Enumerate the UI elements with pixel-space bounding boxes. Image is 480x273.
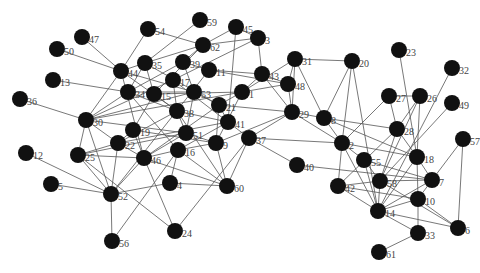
node-circle (289, 157, 305, 173)
node-circle (410, 225, 426, 241)
node-circle (49, 41, 65, 57)
node-26: 26 (412, 88, 437, 104)
node-label: 1 (249, 89, 254, 100)
node-circle (372, 173, 388, 189)
node-label: 46 (151, 155, 161, 166)
edge-57-6 (458, 139, 463, 228)
node-24: 24 (167, 223, 192, 239)
node-52: 52 (103, 186, 128, 202)
node-label: 19 (140, 127, 150, 138)
node-circle (162, 175, 178, 191)
node-label: 16 (185, 147, 195, 158)
node-circle (178, 125, 194, 141)
edge-49-58 (380, 103, 452, 181)
node-15: 15 (146, 86, 171, 102)
node-circle (175, 54, 191, 70)
node-label: 35 (152, 60, 162, 71)
node-label: 56 (119, 238, 129, 249)
node-57: 57 (455, 131, 480, 147)
node-circle (330, 178, 346, 194)
node-16: 16 (170, 142, 195, 158)
edge-20-2 (342, 61, 352, 143)
node-label: 33 (425, 230, 435, 241)
node-circle (370, 203, 386, 219)
node-40: 40 (289, 157, 314, 173)
node-circle (344, 53, 360, 69)
node-label: 23 (406, 47, 416, 58)
node-circle (195, 37, 211, 53)
node-circle (12, 91, 28, 107)
node-label: 24 (182, 228, 192, 239)
node-circle (371, 244, 387, 260)
node-23: 23 (391, 42, 416, 58)
node-label: 57 (470, 136, 480, 147)
node-12: 12 (18, 145, 43, 161)
node-label: 42 (345, 183, 355, 194)
node-61: 61 (371, 244, 396, 260)
node-label: 9 (223, 140, 228, 151)
node-circle (18, 145, 34, 161)
node-46: 46 (136, 150, 161, 166)
node-label: 55 (371, 157, 381, 168)
edge-20-14 (352, 61, 378, 211)
node-label: 36 (27, 96, 37, 107)
node-60: 60 (219, 178, 244, 194)
node-circle (228, 19, 244, 35)
node-27: 27 (381, 88, 406, 104)
node-circle (219, 178, 235, 194)
node-circle (389, 121, 405, 137)
node-label: 30 (93, 117, 103, 128)
node-19: 19 (125, 122, 150, 138)
node-label: 21 (226, 102, 236, 113)
node-label: 41 (235, 119, 245, 130)
node-circle (412, 88, 428, 104)
node-label: 12 (33, 150, 43, 161)
node-circle (43, 176, 59, 192)
node-label: 59 (207, 17, 217, 28)
node-label: 54 (155, 26, 165, 37)
node-circle (356, 152, 372, 168)
node-circle (140, 21, 156, 37)
node-13: 13 (45, 72, 70, 88)
node-55: 55 (356, 152, 381, 168)
node-label: 31 (302, 56, 312, 67)
node-label: 62 (210, 42, 220, 53)
node-47: 47 (74, 29, 99, 45)
node-circle (234, 84, 250, 100)
node-circle (78, 112, 94, 128)
node-circle (186, 84, 202, 100)
node-circle (110, 135, 126, 151)
node-circle (70, 147, 86, 163)
node-circle (137, 55, 153, 71)
node-32: 32 (444, 60, 469, 76)
node-circle (381, 88, 397, 104)
node-31: 31 (287, 51, 312, 67)
node-circle (104, 233, 120, 249)
node-48: 48 (280, 76, 305, 92)
node-10: 10 (410, 191, 435, 207)
node-25: 25 (70, 147, 95, 163)
node-20: 20 (344, 53, 369, 69)
node-label: 25 (85, 152, 95, 163)
node-circle (450, 220, 466, 236)
node-8: 8 (316, 110, 336, 126)
node-9: 9 (208, 135, 228, 151)
node-38: 38 (169, 103, 194, 119)
node-label: 40 (304, 162, 314, 173)
node-41: 41 (220, 114, 245, 130)
node-44: 44 (113, 63, 138, 79)
network-graph: 5945362544750443539111743312013363415531… (0, 0, 480, 273)
node-3: 3 (250, 30, 270, 46)
node-circle (136, 150, 152, 166)
node-label: 48 (295, 81, 305, 92)
node-label: 50 (64, 46, 74, 57)
node-circle (410, 191, 426, 207)
node-11: 11 (201, 62, 226, 78)
edge-2-27 (342, 96, 389, 143)
node-circle (167, 223, 183, 239)
node-label: 6 (465, 225, 470, 236)
node-label: 34 (135, 89, 145, 100)
node-label: 11 (216, 67, 226, 78)
node-35: 35 (137, 55, 162, 71)
node-label: 60 (234, 183, 244, 194)
